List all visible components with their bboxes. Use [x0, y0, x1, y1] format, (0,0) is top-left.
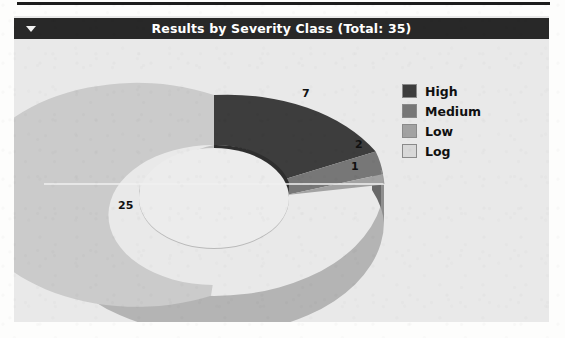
donut-hole — [139, 148, 289, 248]
slice-value-label: 1 — [351, 160, 359, 173]
panel-title: Results by Severity Class (Total: 35) — [152, 21, 412, 36]
triangle-down-icon[interactable] — [23, 18, 39, 39]
legend-item-medium[interactable]: Medium — [402, 101, 481, 121]
legend-label-medium: Medium — [425, 104, 481, 119]
slice-value-label: 2 — [355, 138, 363, 151]
panel-header-bar: Results by Severity Class (Total: 35) — [14, 18, 549, 39]
triangle-down-glyph — [26, 26, 36, 32]
legend-item-high[interactable]: High — [402, 81, 481, 101]
slice-value-label: 7 — [302, 87, 310, 100]
legend-label-log: Log — [425, 144, 451, 159]
legend-label-low: Low — [425, 124, 453, 139]
legend-swatch-medium — [402, 104, 417, 118]
results-panel: Results by Severity Class (Total: 35) — [14, 16, 549, 322]
screenshot-root: Results by Severity Class (Total: 35) — [0, 0, 565, 338]
slice-value-label: 25 — [118, 199, 133, 212]
legend-swatch-low — [402, 124, 417, 138]
donut-chart: 7 2 1 25 High Medium Low — [14, 39, 549, 322]
legend-swatch-high — [402, 84, 417, 98]
chart-legend: High Medium Low Log — [402, 81, 481, 161]
legend-item-log[interactable]: Log — [402, 141, 481, 161]
legend-item-low[interactable]: Low — [402, 121, 481, 141]
legend-label-high: High — [425, 84, 458, 99]
legend-swatch-log — [402, 144, 417, 158]
top-divider-rule — [17, 2, 550, 5]
